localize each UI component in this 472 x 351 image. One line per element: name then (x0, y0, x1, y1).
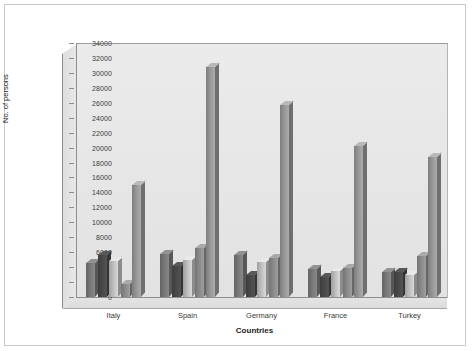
bar[interactable] (86, 263, 95, 297)
bar[interactable] (160, 254, 169, 297)
bar-front (183, 260, 192, 297)
y-tick-mark (69, 43, 74, 44)
x-axis-line (76, 297, 447, 298)
bar-front (320, 277, 329, 297)
x-tick-label: Italy (107, 311, 121, 320)
bar-front (86, 263, 95, 297)
x-tick-label: France (324, 311, 347, 320)
bar[interactable] (308, 269, 317, 297)
bar-group (382, 43, 448, 297)
bar-front (234, 255, 243, 297)
y-tick-mark (69, 177, 74, 178)
y-tick-mark (69, 163, 74, 164)
y-tick-mark (69, 148, 74, 149)
y-tick-mark (69, 103, 74, 104)
bar[interactable] (183, 260, 192, 297)
bar-front (394, 272, 403, 297)
bar-front (195, 248, 204, 297)
bar-front (331, 271, 340, 297)
bar-front (382, 272, 391, 297)
bar-group (160, 43, 226, 297)
bar[interactable] (320, 277, 329, 297)
x-axis-title: Countries (62, 326, 447, 335)
chart-plot-area: 3400032000300002800026000240002200020000… (62, 43, 447, 308)
y-tick-mark (69, 207, 74, 208)
bar[interactable] (343, 268, 352, 297)
bar[interactable] (280, 105, 289, 297)
y-tick-mark (69, 222, 74, 223)
bar-front (160, 254, 169, 297)
bar-side (437, 152, 441, 297)
bar-side (363, 141, 367, 297)
y-tick-mark (69, 297, 74, 298)
bar[interactable] (354, 146, 363, 297)
bar-front (109, 261, 118, 297)
bar[interactable] (257, 262, 266, 297)
bar[interactable] (331, 271, 340, 297)
x-tick-label: Turkey (398, 311, 421, 320)
bar-front (132, 185, 141, 297)
y-tick-mark (69, 237, 74, 238)
y-tick-mark (69, 118, 74, 119)
bar[interactable] (206, 67, 215, 297)
bar-front (343, 268, 352, 297)
x-tick-label: Germany (246, 311, 277, 320)
bar[interactable] (109, 261, 118, 297)
bar-front (98, 255, 107, 297)
bar[interactable] (172, 266, 181, 297)
bar-front (246, 275, 255, 297)
y-tick-mark (69, 192, 74, 193)
bar-group (234, 43, 300, 297)
bar[interactable] (394, 272, 403, 297)
bar-front (308, 269, 317, 297)
bar[interactable] (428, 157, 437, 297)
bar-group (86, 43, 152, 297)
bar[interactable] (234, 255, 243, 297)
bar[interactable] (98, 255, 107, 297)
bar-front (354, 146, 363, 297)
bar-side (289, 100, 293, 297)
bar-front (405, 275, 414, 297)
y-tick-mark (69, 58, 74, 59)
bar[interactable] (195, 248, 204, 297)
y-tick-mark (69, 88, 74, 89)
bar-front (269, 258, 278, 297)
bar-front (206, 67, 215, 297)
bar-front (280, 105, 289, 297)
y-axis-title: No. of persons (1, 74, 10, 123)
bar-front (121, 284, 130, 297)
x-tick-label: Spain (178, 311, 197, 320)
bar-front (417, 256, 426, 297)
bar-front (257, 262, 266, 297)
bar-front (172, 266, 181, 297)
y-tick-mark (69, 133, 74, 134)
bar[interactable] (417, 256, 426, 297)
y-tick-mark (69, 252, 74, 253)
y-tick-mark (69, 267, 74, 268)
bar[interactable] (269, 258, 278, 297)
chart-floor (62, 297, 447, 309)
chart-frame: 3400032000300002800026000240002200020000… (4, 4, 466, 346)
bar-group (308, 43, 374, 297)
bar[interactable] (246, 275, 255, 297)
bar-side (215, 62, 219, 297)
y-tick-mark (69, 73, 74, 74)
bar-front (428, 157, 437, 297)
y-tick-mark (69, 282, 74, 283)
bar-side (141, 180, 145, 297)
bar[interactable] (132, 185, 141, 297)
bar[interactable] (405, 275, 414, 297)
bar[interactable] (121, 284, 130, 297)
bar[interactable] (382, 272, 391, 297)
